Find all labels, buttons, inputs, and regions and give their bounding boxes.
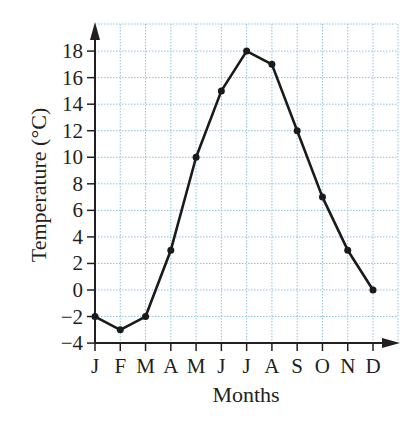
x-tick-label: S [291, 354, 303, 378]
temperature-line [95, 51, 373, 330]
y-tick-label: 16 [62, 66, 83, 90]
y-tick-label: 0 [73, 278, 84, 302]
y-tick-label: 10 [62, 145, 83, 169]
y-axis-ticks: −4−2024681012141618 [61, 39, 95, 355]
data-point [92, 313, 99, 320]
data-point [370, 287, 377, 294]
x-axis-ticks: JFMAMJJASOND [91, 343, 381, 378]
y-tick-label: 14 [62, 92, 84, 116]
y-axis-arrow-icon [90, 22, 100, 40]
x-tick-label: J [91, 354, 99, 378]
data-point [142, 313, 149, 320]
data-point [218, 87, 225, 94]
y-tick-label: −2 [61, 305, 83, 329]
data-point [117, 326, 124, 333]
data-point [294, 127, 301, 134]
data-point [167, 247, 174, 254]
y-tick-label: −4 [61, 331, 84, 355]
x-tick-label: M [136, 354, 155, 378]
y-axis-title: Temperature (°C) [26, 108, 51, 262]
data-point [319, 194, 326, 201]
x-axis-arrow-icon [382, 338, 400, 348]
data-point [193, 154, 200, 161]
x-tick-label: J [217, 354, 225, 378]
x-tick-label: M [187, 354, 206, 378]
x-tick-label: A [163, 354, 179, 378]
axes [90, 22, 400, 348]
data-point [268, 61, 275, 68]
data-point [344, 247, 351, 254]
x-tick-label: O [315, 354, 330, 378]
y-tick-label: 2 [73, 251, 84, 275]
y-tick-label: 8 [73, 172, 84, 196]
x-tick-label: N [340, 354, 355, 378]
y-tick-label: 12 [62, 119, 83, 143]
x-tick-label: F [114, 354, 126, 378]
y-tick-label: 4 [73, 225, 84, 249]
y-tick-label: 18 [62, 39, 83, 63]
grid-lines [95, 24, 398, 343]
data-point [243, 48, 250, 55]
y-tick-label: 6 [73, 198, 84, 222]
x-tick-label: A [264, 354, 280, 378]
x-tick-label: D [365, 354, 380, 378]
x-tick-label: J [243, 354, 251, 378]
x-axis-title: Months [212, 382, 279, 407]
line-chart: −4−2024681012141618 JFMAMJJASOND Months … [0, 0, 420, 433]
